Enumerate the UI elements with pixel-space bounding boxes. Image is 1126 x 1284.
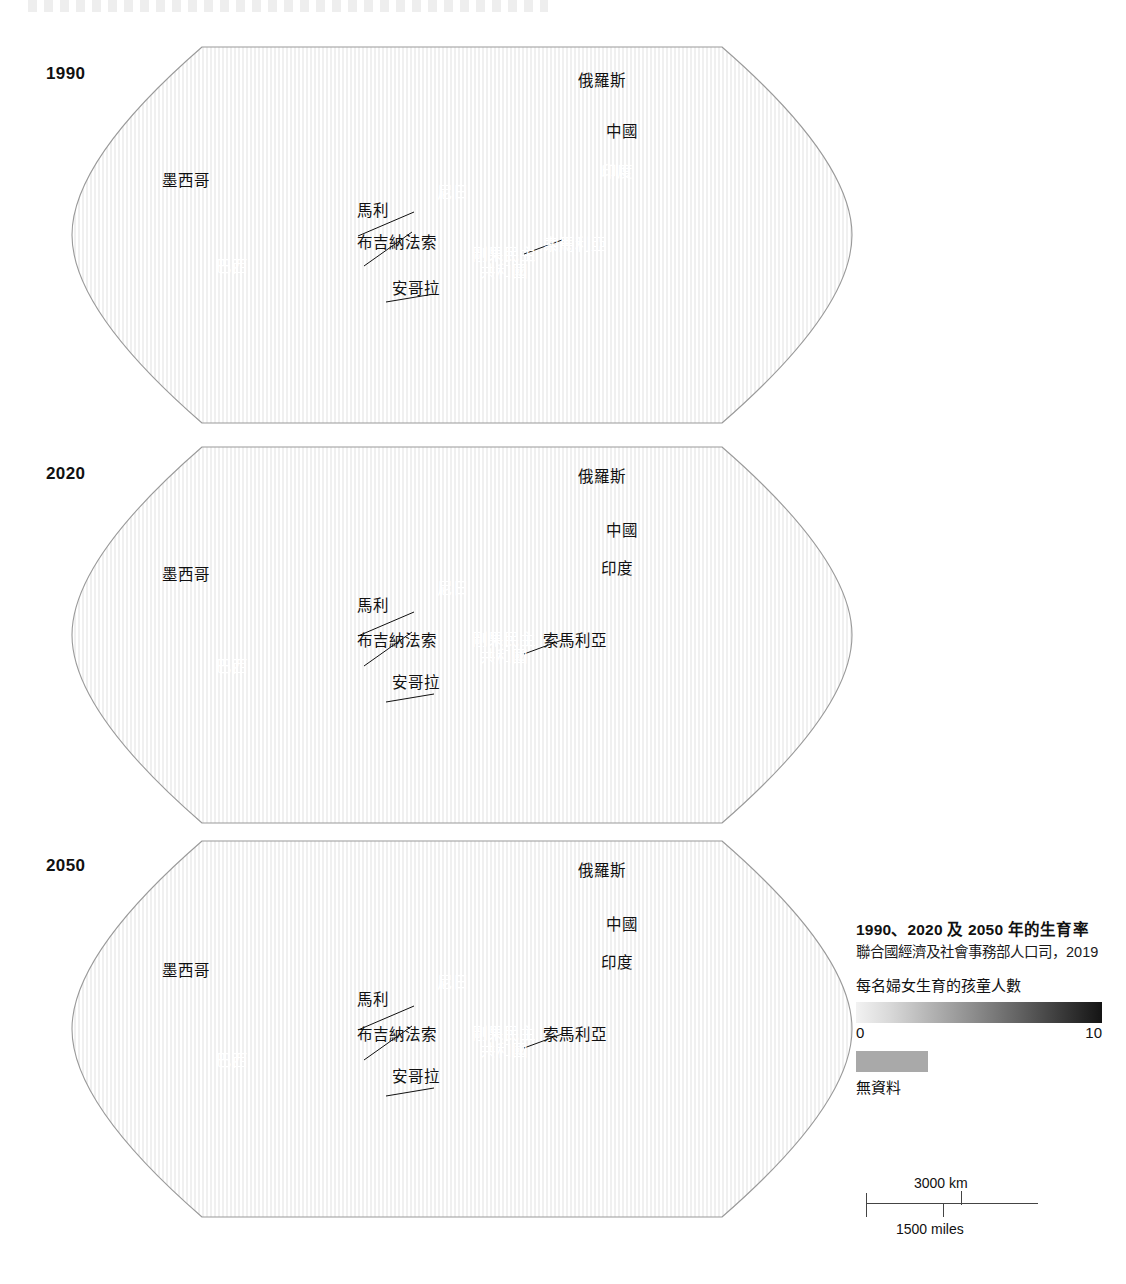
label-china-1990: 中國 [606,123,638,140]
label-drc-line2: 共和國 [480,263,528,280]
label-brazil-1990: 巴西 [216,258,248,275]
scale-tick-km [961,1191,962,1205]
label-niger-2050: 尼日 [437,974,469,991]
label-russia-1990: 俄羅斯 [578,72,626,89]
scale-tick-miles [943,1203,944,1217]
no-data-label: 無資料 [856,1076,1106,1097]
page-header-fragment [28,0,548,12]
label-mexico-2050: 墨西哥 [162,962,210,979]
label-drc-1990: 剛果民主 共和國 [455,246,553,281]
label-burkina-faso-2050: 布吉納法索 [357,1026,437,1043]
label-drc-line1: 剛果民主 [472,631,536,648]
label-drc-2050: 剛果民主 共和國 [455,1025,553,1060]
label-mali-1990: 馬利 [357,202,389,219]
label-somalia-2050: 索馬利亞 [543,1026,607,1043]
label-burkina-faso-1990: 布吉納法索 [357,234,437,251]
legend-unit-label: 每名婦女生育的孩童人數 [856,976,1106,996]
label-niger-1990: 尼日 [437,184,469,201]
label-angola-2050: 安哥拉 [392,1068,440,1085]
no-data-swatch [856,1051,928,1072]
label-angola-1990: 安哥拉 [392,280,440,297]
label-somalia-2020: 索馬利亞 [543,632,607,649]
label-china-2050: 中國 [606,916,638,933]
label-india-2050: 印度 [601,954,633,971]
label-india-2020: 印度 [601,560,633,577]
ramp-max-label: 10 [1085,1024,1102,1041]
label-china-2020: 中國 [606,522,638,539]
label-somalia-1990: 索馬利亞 [543,236,607,253]
label-mali-2050: 馬利 [357,991,389,1008]
scale-miles-label: 1500 miles [896,1221,964,1237]
label-niger-2020: 尼日 [437,580,469,597]
label-drc-line1: 剛果民主 [472,246,536,263]
legend-source: 聯合國經濟及社會事務部人口司，2019 [856,943,1106,962]
ramp-min-label: 0 [856,1024,864,1041]
label-angola-2020: 安哥拉 [392,674,440,691]
label-drc-line2: 共和國 [480,1042,528,1059]
label-drc-2020: 剛果民主 共和國 [455,631,553,666]
scale-tick-origin [866,1193,867,1217]
label-drc-line1: 剛果民主 [472,1025,536,1042]
label-burkina-faso-2020: 布吉納法索 [357,632,437,649]
map-page: 1990 [0,0,1126,1284]
label-drc-line2: 共和國 [480,648,528,665]
label-mexico-1990: 墨西哥 [162,172,210,189]
label-russia-2050: 俄羅斯 [578,862,626,879]
label-india-1990: 印度 [601,163,633,180]
legend-panel: 1990、2020 及 2050 年的生育率 聯合國經濟及社會事務部人口司，20… [856,920,1106,1097]
color-ramp-axis: 0 10 [856,1023,1102,1043]
label-brazil-2020: 巴西 [216,658,248,675]
scale-bar: 3000 km 1500 miles [866,1175,1046,1245]
scale-rule [866,1203,1038,1204]
label-brazil-2050: 巴西 [216,1052,248,1069]
scale-km-label: 3000 km [914,1175,968,1191]
label-mexico-2020: 墨西哥 [162,566,210,583]
label-russia-2020: 俄羅斯 [578,468,626,485]
legend-title: 1990、2020 及 2050 年的生育率 [856,920,1106,941]
label-mali-2020: 馬利 [357,597,389,614]
color-ramp [856,1002,1102,1023]
world-map-1990 [62,40,862,430]
